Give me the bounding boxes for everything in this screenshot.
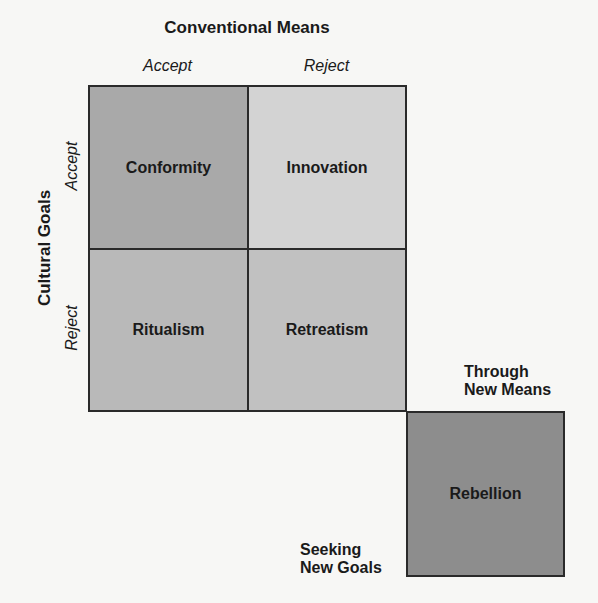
- column-label-accept: Accept: [88, 57, 247, 75]
- through-new-means-label: Through New Means: [464, 363, 551, 399]
- cell-label: Ritualism: [132, 321, 204, 339]
- cell-label: Conformity: [126, 159, 211, 177]
- cell-retreatism: Retreatism: [247, 248, 407, 412]
- cell-innovation: Innovation: [247, 85, 407, 250]
- column-label-reject: Reject: [247, 57, 406, 75]
- column-axis-title: Conventional Means: [88, 18, 406, 38]
- row-label-accept: Accept: [63, 142, 81, 191]
- row-axis-title: Cultural Goals: [35, 190, 55, 306]
- seeking-new-goals-label: Seeking New Goals: [300, 541, 382, 577]
- cell-ritualism: Ritualism: [88, 248, 249, 412]
- cell-conformity: Conformity: [88, 85, 249, 250]
- cell-label: Innovation: [287, 159, 368, 177]
- cell-label: Retreatism: [286, 321, 369, 339]
- cell-label: Rebellion: [449, 485, 521, 503]
- cell-rebellion: Rebellion: [406, 411, 565, 577]
- row-label-reject: Reject: [63, 305, 81, 350]
